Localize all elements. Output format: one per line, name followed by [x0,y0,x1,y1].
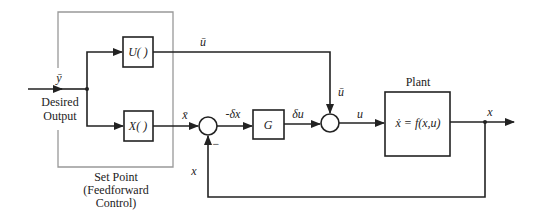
x-out-label: x [486,105,493,119]
summing-junction-2 [321,114,339,132]
setpoint-label-1: Set Point [94,170,138,184]
delta-u-label: δu [292,107,304,121]
minus-sign: − [213,137,220,151]
neg-delta-x-label: -δx [226,107,242,121]
u-block-label: U( ) [128,45,148,59]
input-signal-label: ȳ [55,71,62,85]
u-bar-down-label: ū [338,85,344,99]
gain-label: G [264,118,273,132]
desired-label-2: Output [43,109,77,123]
setpoint-label-3: Control) [96,196,137,210]
plant-title: Plant [406,75,431,89]
setpoint-label-2: (Feedforward [83,183,148,197]
u-label: u [357,107,363,121]
desired-label-1: Desired [41,95,78,109]
x-block-label: X( ) [128,119,147,133]
branch-to-x [87,89,123,126]
control-block-diagram: ȳ Desired Output U( ) X( ) G Plant ẋ = f… [0,0,538,224]
x-feedback-label: x [190,164,197,178]
u-bar-top-label: ū [200,35,206,49]
plant-equation: ẋ = f(x,u) [394,116,440,130]
branch-to-u [87,52,122,89]
summing-junction-1 [199,117,217,135]
u-bar-wire [153,52,330,113]
x-bar-label: x̄ [181,108,188,122]
